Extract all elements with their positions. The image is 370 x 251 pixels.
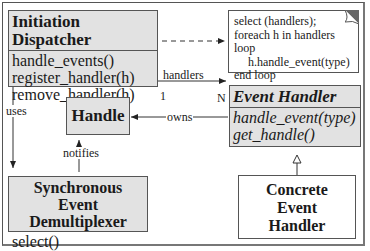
class-title-line: Concrete — [239, 181, 355, 199]
note-line: end loop — [234, 69, 353, 83]
note-line: foreach h in handlers loop — [234, 29, 353, 56]
label-uses: uses — [6, 105, 27, 117]
class-event-handler: Event Handler handle_event(type) get_han… — [229, 85, 361, 147]
operation-select: select() — [9, 232, 147, 251]
label-owns: owns — [166, 111, 193, 123]
note-line: select (handlers); — [234, 15, 353, 29]
note-folded-corner-icon — [345, 10, 359, 24]
class-title-line: Handler — [239, 217, 355, 235]
label-multiplicity-many: N — [217, 92, 226, 104]
operation-handle-event: handle_event(type) — [233, 109, 357, 126]
class-title-line: Synchronous Event — [12, 179, 144, 213]
class-handle: Handle — [66, 97, 130, 135]
class-title: Initiation Dispatcher — [9, 11, 157, 51]
operation-get-handle: get_handle() — [233, 126, 357, 143]
pseudocode-note: select (handlers); foreach h in handlers… — [228, 10, 359, 73]
class-title: Event Handler — [230, 86, 360, 108]
class-title-line: Demultiplexer — [12, 213, 144, 230]
label-handlers: handlers — [163, 69, 204, 81]
class-title-line: Event — [239, 199, 355, 217]
label-notifies: notifies — [62, 147, 100, 159]
class-synchronous-event-demultiplexer: Synchronous Event Demultiplexer select() — [8, 176, 148, 232]
note-line: h.handle_event(type) — [234, 56, 353, 70]
label-multiplicity-one: 1 — [160, 90, 166, 102]
operation-handle-events: handle_events() — [12, 52, 154, 69]
operation-register-handler: register_handler(h) — [12, 69, 154, 86]
class-initiation-dispatcher: Initiation Dispatcher handle_events() re… — [8, 10, 158, 87]
class-title: Handle — [67, 98, 129, 134]
class-concrete-event-handler: Concrete Event Handler — [238, 175, 356, 239]
